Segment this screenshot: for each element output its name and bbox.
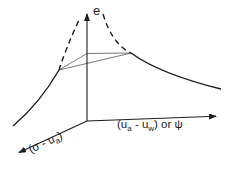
- projection-line-to-axis: [59, 54, 87, 71]
- suction-label-part: (u: [117, 118, 127, 130]
- suction-label-part: - u: [132, 118, 149, 130]
- suction-curve-dashed: [103, 14, 131, 53]
- net-stress-curve-dashed: [59, 20, 79, 70]
- projection-line-between-curves: [59, 53, 130, 70]
- void-ratio-axis-label: e: [93, 4, 100, 17]
- matric-suction-axis-label: (ua - uw) or ψ: [117, 119, 183, 133]
- suction-label-part: ) or ψ: [154, 118, 183, 130]
- net-stress-curve-solid: [13, 70, 59, 126]
- projection-line-horizontal: [87, 53, 131, 54]
- suction-curve-solid: [131, 53, 221, 89]
- state-surface-diagram: e (ua - uw) or ψ (σ - ua): [0, 0, 226, 171]
